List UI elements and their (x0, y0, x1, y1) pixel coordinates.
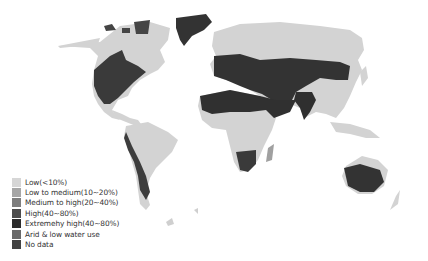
legend-swatch (12, 178, 21, 187)
legend-item-low-to-medium: Low to medium(10~20%) (12, 187, 119, 197)
legend-item-medium-to-high: Medium to high(20~40%) (12, 198, 119, 208)
legend-label: High(40~80%) (25, 209, 79, 218)
legend-label: Medium to high(20~40%) (25, 198, 118, 207)
legend-item-extremely-high: Extremehy high(40~80%) (12, 219, 119, 229)
legend-label: Low to medium(10~20%) (25, 188, 118, 197)
legend-swatch (12, 188, 21, 197)
region-south-america (124, 122, 178, 210)
legend-swatch (12, 209, 21, 218)
legend-item-low: Low(<10%) (12, 177, 119, 187)
legend: Low(<10%) Low to medium(10~20%) Medium t… (12, 177, 119, 250)
legend-label: Extremehy high(40~80%) (25, 219, 119, 228)
legend-label: No data (25, 240, 53, 249)
legend-swatch (12, 198, 21, 207)
region-small-islands (166, 208, 198, 226)
legend-item-arid: Arid & low water use (12, 229, 119, 239)
region-greenland (176, 14, 212, 46)
region-new-zealand (390, 190, 400, 210)
legend-swatch (12, 240, 21, 249)
legend-label: Low(<10%) (25, 178, 67, 187)
legend-label: Arid & low water use (25, 230, 100, 239)
legend-swatch (12, 230, 21, 239)
region-se-asia (330, 122, 380, 138)
legend-swatch (12, 219, 21, 228)
region-madagascar (266, 144, 274, 162)
legend-item-high: High(40~80%) (12, 208, 119, 218)
legend-item-no-data: No data (12, 239, 119, 249)
